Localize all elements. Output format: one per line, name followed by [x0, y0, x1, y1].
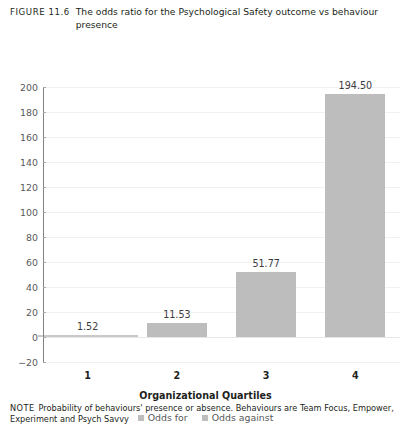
bar-value-label: 1.52 — [77, 321, 98, 332]
y-axis-tick-mark — [43, 87, 46, 88]
bar-value-label: 11.53 — [163, 309, 190, 320]
bar-value-label: 194.50 — [339, 80, 373, 91]
x-axis-tick-label: 4 — [352, 370, 359, 381]
y-axis-tick-mark — [43, 312, 46, 313]
y-axis-ticks: 200180160140120100806040200−20 — [0, 87, 38, 362]
gridline — [43, 362, 400, 363]
note-text: Probability of behaviours' presence or a… — [39, 403, 394, 413]
x-axis-tick-label: 3 — [263, 370, 270, 381]
y-axis-tick-label: 40 — [26, 282, 38, 293]
bar — [325, 94, 385, 337]
y-axis-tick-mark — [43, 337, 46, 338]
y-axis-tick-label: 60 — [26, 257, 38, 268]
y-axis-tick-label: 160 — [20, 132, 38, 143]
y-axis-tick-mark — [43, 362, 46, 363]
y-axis-tick-label: −20 — [18, 357, 38, 368]
figure-caption: FIGURE 11.6 The odds ratio for the Psych… — [0, 0, 411, 31]
y-axis-tick-mark — [43, 237, 46, 238]
note-text-line2: Experiment and Psych Savvy — [10, 414, 405, 424]
bar — [147, 323, 207, 337]
y-axis-tick-mark — [43, 112, 46, 113]
y-axis-tick-mark — [43, 287, 46, 288]
x-axis-title: Organizational Quartiles — [0, 390, 411, 401]
bar — [236, 272, 296, 337]
y-axis-tick-mark — [43, 212, 46, 213]
figure-title: The odds ratio for the Psychological Saf… — [76, 6, 401, 31]
y-axis-tick-label: 100 — [20, 207, 38, 218]
y-axis-tick-mark — [43, 137, 46, 138]
figure-note: NOTEProbability of behaviours' presence … — [10, 403, 405, 424]
y-axis-tick-mark — [43, 187, 46, 188]
x-axis-tick-label: 2 — [174, 370, 181, 381]
y-axis-tick-label: 140 — [20, 157, 38, 168]
y-axis-tick-label: 120 — [20, 182, 38, 193]
y-axis-tick-mark — [43, 162, 46, 163]
y-axis-tick-label: 180 — [20, 107, 38, 118]
y-axis-line — [43, 87, 44, 363]
y-axis-tick-mark — [43, 262, 46, 263]
plot-area: 1.5211.5351.77194.50 — [43, 87, 400, 362]
chart-figure: 1.5211.5351.77194.50 2001801601401201008… — [0, 31, 411, 376]
gridline — [43, 337, 400, 338]
y-axis-tick-label: 0 — [32, 332, 38, 343]
y-axis-tick-label: 200 — [20, 82, 38, 93]
figure-number: FIGURE 11.6 — [10, 6, 70, 17]
note-label: NOTE — [10, 403, 35, 413]
y-axis-tick-label: 80 — [26, 232, 38, 243]
bar-value-label: 51.77 — [252, 258, 279, 269]
x-axis-tick-label: 1 — [84, 370, 91, 381]
y-axis-tick-label: 20 — [26, 307, 38, 318]
bar — [38, 335, 138, 337]
